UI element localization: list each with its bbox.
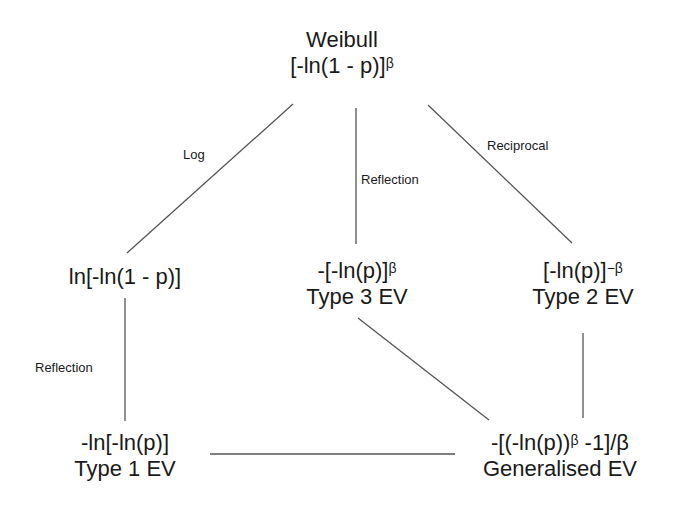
generalised-formula-post: -1]/β <box>578 430 629 455</box>
type1-title: Type 1 EV <box>74 456 176 482</box>
edge-label-reflection-left: Reflection <box>35 360 93 375</box>
weibull-title: Weibull <box>290 27 393 53</box>
edge-weibull-log <box>127 104 293 253</box>
weibull-formula: [-ln(1 - p)]β <box>290 53 393 79</box>
node-generalised: -[(-ln(p))β -1]/β Generalised EV <box>483 430 637 482</box>
node-type3: -[-ln(p)]β Type 3 EV <box>306 258 408 310</box>
type2-formula: [-ln(p)]−β <box>532 258 634 284</box>
type2-formula-sup: −β <box>607 260 623 276</box>
weibull-formula-base: [-ln(1 - p)] <box>290 53 385 78</box>
type3-formula: -[-ln(p)]β <box>306 258 408 284</box>
node-log-weibull: ln[-ln(1 - p)] <box>69 264 181 290</box>
edge-label-reciprocal: Reciprocal <box>487 138 548 153</box>
generalised-formula-sup: β <box>570 432 578 448</box>
node-weibull: Weibull [-ln(1 - p)]β <box>290 27 393 79</box>
edge-label-log: Log <box>183 147 205 162</box>
weibull-formula-sup: β <box>386 55 394 71</box>
generalised-formula: -[(-ln(p))β -1]/β <box>483 430 637 456</box>
type3-formula-base: -[-ln(p)] <box>318 258 389 283</box>
edge-type3-generalised <box>358 318 489 420</box>
type2-formula-base: [-ln(p)] <box>543 258 607 283</box>
edge-label-reflection-top: Reflection <box>361 172 419 187</box>
log-weibull-formula: ln[-ln(1 - p)] <box>69 264 181 290</box>
type1-formula: -ln[-ln(p)] <box>74 430 176 456</box>
node-type1: -ln[-ln(p)] Type 1 EV <box>74 430 176 482</box>
generalised-formula-pre: -[(-ln(p)) <box>491 430 570 455</box>
type3-title: Type 3 EV <box>306 284 408 310</box>
type3-formula-sup: β <box>388 260 396 276</box>
generalised-title: Generalised EV <box>483 456 637 482</box>
type2-title: Type 2 EV <box>532 284 634 310</box>
edge-weibull-type2 <box>428 105 572 243</box>
node-type2: [-ln(p)]−β Type 2 EV <box>532 258 634 310</box>
